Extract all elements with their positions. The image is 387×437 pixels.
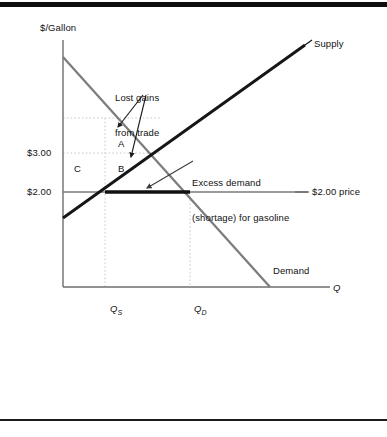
supply-label-leader <box>305 40 312 45</box>
y-axis-title: $/Gallon <box>40 22 76 34</box>
x-tick-label-qd-sub: D <box>201 308 206 315</box>
supply-curve-label: Supply <box>314 38 344 50</box>
x-tick-label-qs-sub: S <box>117 308 122 315</box>
x-axis-title: Q <box>333 282 341 294</box>
x-tick-label-qd: QD <box>183 291 207 329</box>
region-label-c: C <box>74 163 81 175</box>
excess-demand-arrow <box>147 161 193 188</box>
x-tick-label-qs: QS <box>99 291 122 329</box>
region-label-b: B <box>118 163 124 175</box>
lost-gains-annotation: Lost gains from trade <box>115 69 159 161</box>
lost-gains-line-1: Lost gains <box>115 92 159 104</box>
excess-demand-line-2: (shortage) for gasoline <box>192 212 289 224</box>
y-tick-label-200: $2.00 <box>27 186 51 198</box>
y-tick-label-300: $3.00 <box>27 147 51 159</box>
demand-curve-label: Demand <box>273 265 310 277</box>
lost-gains-line-2: from trade <box>115 127 159 139</box>
price-line-label: $2.00 price <box>312 186 360 198</box>
excess-demand-annotation: Excess demand (shortage) for gasoline <box>192 154 289 246</box>
figure-canvas: $/Gallon $3.00 $2.00 QS QD Q Supply Dema… <box>0 0 387 437</box>
excess-demand-line-1: Excess demand <box>192 177 289 189</box>
